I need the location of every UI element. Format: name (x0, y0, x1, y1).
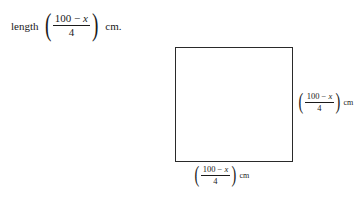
open-paren: ( (194, 166, 199, 184)
numerator-variable: x (83, 12, 88, 24)
numerator-variable: x (328, 91, 332, 101)
fraction-numerator: 100 − x (305, 92, 335, 102)
text-line: length ( 100 − x 4 ) cm. (11, 13, 121, 38)
close-paren: ) (336, 93, 341, 111)
fraction-denominator: 4 (211, 176, 219, 186)
fraction: 100 − x 4 (201, 165, 231, 185)
fraction: 100 − x 4 (305, 92, 335, 112)
open-paren: ( (44, 13, 50, 38)
fraction-denominator: 4 (67, 26, 77, 38)
text-line-expression: ( 100 − x 4 ) (43, 13, 101, 38)
close-paren: ) (92, 13, 98, 38)
close-paren: ) (232, 166, 237, 184)
label-bottom-side: ( 100 − x 4 ) cm (193, 165, 249, 185)
square-figure (175, 47, 293, 162)
fraction-denominator: 4 (315, 103, 323, 113)
text-line-unit: cm. (105, 20, 121, 32)
text-line-lead: length (11, 20, 39, 32)
fraction: 100 − x 4 (53, 13, 90, 38)
fraction-numerator: 100 − x (53, 13, 90, 25)
label-right-side: ( 100 − x 4 ) cm (297, 92, 353, 112)
numerator-text: 100 − (55, 12, 83, 24)
label-bottom-expression: ( 100 − x 4 ) (193, 165, 238, 185)
fraction-numerator: 100 − x (201, 165, 231, 175)
open-paren: ( (298, 93, 303, 111)
label-bottom-unit: cm (239, 171, 249, 180)
numerator-text: 100 − (307, 91, 329, 101)
numerator-text: 100 − (203, 164, 225, 174)
label-right-unit: cm (343, 98, 353, 107)
numerator-variable: x (224, 164, 228, 174)
label-right-expression: ( 100 − x 4 ) (297, 92, 342, 112)
